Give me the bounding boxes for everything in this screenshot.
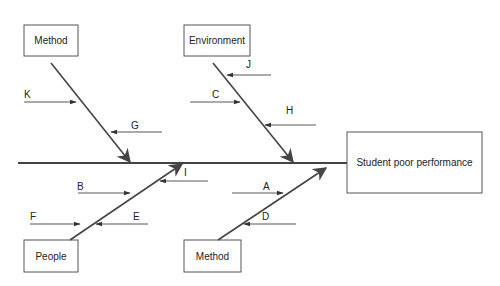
cause-g: G [111, 120, 162, 132]
category-bone [70, 164, 182, 240]
cause-label: C [212, 89, 219, 100]
cause-j: J [227, 59, 271, 75]
cause-label: I [184, 167, 187, 178]
category-label: Environment [189, 35, 245, 46]
cause-label: G [131, 120, 139, 131]
category-label: Method [34, 35, 67, 46]
cause-label: J [246, 59, 251, 70]
effect-label: Student poor performance [356, 157, 473, 168]
category-bone [213, 63, 293, 162]
cause-label: A [263, 181, 270, 192]
cause-label: K [24, 89, 31, 100]
cause-a: A [232, 181, 283, 193]
category-method-bottom: Method [184, 168, 326, 272]
category-label: People [35, 251, 67, 262]
cause-c: C [190, 89, 240, 102]
cause-label: H [286, 105, 293, 116]
cause-label: F [30, 211, 36, 222]
category-environment: Environment [184, 25, 293, 162]
cause-label: E [133, 211, 140, 222]
cause-label: B [77, 181, 84, 192]
category-label: Method [196, 251, 229, 262]
cause-k: K [24, 89, 76, 102]
cause-label: D [262, 211, 269, 222]
category-bone [51, 63, 130, 162]
category-people: People [24, 164, 182, 272]
cause-b: B [77, 181, 130, 193]
cause-h: H [265, 105, 316, 125]
fishbone-diagram: Student poor performance Method Environm… [0, 0, 500, 286]
cause-f: F [30, 211, 80, 224]
category-bone [218, 168, 326, 240]
category-method-top: Method [24, 25, 130, 162]
effect-box: Student poor performance [347, 132, 482, 193]
fishbone-svg: Student poor performance Method Environm… [0, 0, 500, 286]
